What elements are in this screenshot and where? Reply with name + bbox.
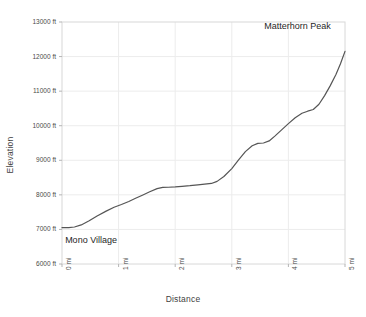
x-tick-label: 4 mi bbox=[291, 258, 298, 270]
elevation-profile-chart: 6000 ft7000 ft8000 ft9000 ft10000 ft1100… bbox=[0, 0, 366, 317]
x-tick-label: 3 mi bbox=[235, 258, 242, 270]
x-tick-label: 5 mi bbox=[348, 258, 355, 270]
y-tick-label: 6000 ft bbox=[10, 260, 56, 267]
x-axis-title: Distance bbox=[0, 294, 366, 304]
y-tick-label: 8000 ft bbox=[10, 191, 56, 198]
x-tick-label: 1 mi bbox=[122, 258, 129, 270]
y-tick-label: 7000 ft bbox=[10, 225, 56, 232]
y-tick-label: 9000 ft bbox=[10, 156, 56, 163]
y-axis-title: Elevation bbox=[5, 123, 15, 187]
x-tick-label: 2 mi bbox=[178, 258, 185, 270]
elevation-line-series bbox=[62, 51, 345, 227]
y-tick-label: 13000 ft bbox=[10, 18, 56, 25]
plot-frame-border bbox=[62, 22, 345, 264]
point-annotation: Mono Village bbox=[65, 235, 117, 245]
x-tick-label: 0 mi bbox=[65, 258, 72, 270]
y-tick-label: 10000 ft bbox=[10, 122, 56, 129]
horizontal-gridlines bbox=[62, 57, 345, 230]
axis-tick-marks bbox=[59, 22, 345, 267]
y-tick-label: 11000 ft bbox=[10, 87, 56, 94]
y-tick-label: 12000 ft bbox=[10, 53, 56, 60]
point-annotation: Matterhorn Peak bbox=[264, 21, 331, 31]
